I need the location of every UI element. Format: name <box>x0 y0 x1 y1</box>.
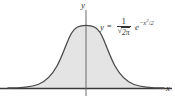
equation-lhs: y <box>100 23 104 32</box>
fraction-one-over-sqrt-two-pi: 1 √ 2π <box>117 17 131 37</box>
exponential-term: e −x2/2 <box>135 23 154 32</box>
exponent-power: 2 <box>146 18 149 23</box>
bell-curve-plot <box>0 0 175 100</box>
fraction-numerator: 1 <box>119 17 128 26</box>
radicand-two-pi: 2π <box>121 27 130 37</box>
equals-sign: = <box>107 23 112 31</box>
exponent-denominator: 2 <box>151 19 154 26</box>
y-axis-label: y <box>81 1 85 10</box>
normal-distribution-figure: y x y = 1 √ 2π e −x2/2 <box>0 0 175 100</box>
x-axis-label: x <box>166 84 170 93</box>
exponent-expression: −x2/2 <box>139 20 154 27</box>
equation-annotation: y = 1 √ 2π e −x2/2 <box>100 17 154 37</box>
fraction-denominator: √ 2π <box>117 27 131 37</box>
square-root: √ 2π <box>118 27 130 37</box>
